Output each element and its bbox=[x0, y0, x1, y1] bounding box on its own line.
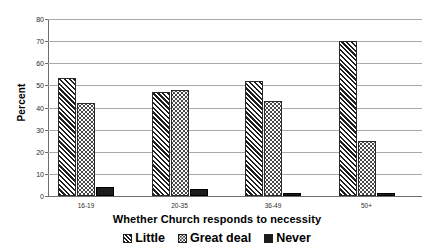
plot-area: 01020304050607080 bbox=[48, 19, 422, 197]
bar-chart: Percent 01020304050607080 16-1920-3536-4… bbox=[0, 0, 434, 252]
y-tick-mark bbox=[45, 152, 48, 153]
bar-group bbox=[152, 19, 246, 196]
y-tick-mark bbox=[45, 196, 48, 197]
y-tick-mark bbox=[45, 85, 48, 86]
bar bbox=[77, 103, 95, 196]
x-tick-label: 50+ bbox=[361, 203, 372, 210]
x-tick-label: 20-35 bbox=[171, 203, 188, 210]
y-tick-label: 20 bbox=[36, 148, 44, 155]
x-tick-label: 36-49 bbox=[265, 203, 282, 210]
y-tick-mark bbox=[45, 19, 48, 20]
legend-item: Little bbox=[123, 231, 165, 245]
y-tick-label: 40 bbox=[36, 104, 44, 111]
legend-swatch-icon bbox=[123, 234, 132, 243]
legend-swatch-icon bbox=[178, 234, 187, 243]
bar bbox=[377, 193, 395, 196]
y-tick-mark bbox=[45, 63, 48, 64]
bar bbox=[283, 193, 301, 196]
y-tick-mark bbox=[45, 41, 48, 42]
y-tick-label: 70 bbox=[36, 38, 44, 45]
bar bbox=[171, 90, 189, 196]
legend-swatch-icon bbox=[264, 234, 273, 243]
bar bbox=[264, 101, 282, 196]
y-tick-label: 10 bbox=[36, 170, 44, 177]
y-tick-mark bbox=[45, 108, 48, 109]
legend-label: Little bbox=[135, 231, 165, 245]
y-tick-mark bbox=[45, 174, 48, 175]
x-tick-label: 16-19 bbox=[78, 203, 95, 210]
bar bbox=[152, 92, 170, 196]
y-tick-label: 80 bbox=[36, 16, 44, 23]
legend-label: Never bbox=[276, 231, 311, 245]
bar bbox=[358, 141, 376, 196]
y-axis-title: Percent bbox=[16, 63, 27, 143]
y-tick-label: 50 bbox=[36, 82, 44, 89]
bar-group bbox=[339, 19, 433, 196]
y-tick-label: 30 bbox=[36, 126, 44, 133]
chart-legend: LittleGreat dealNever bbox=[0, 231, 434, 245]
bar-group bbox=[245, 19, 339, 196]
x-axis-title: Whether Church responds to necessity bbox=[0, 213, 434, 225]
legend-item: Never bbox=[264, 231, 311, 245]
legend-item: Great deal bbox=[178, 231, 251, 245]
bar bbox=[339, 41, 357, 196]
gridline bbox=[48, 196, 422, 197]
bar-group bbox=[58, 19, 152, 196]
y-tick-mark bbox=[45, 130, 48, 131]
y-tick-label: 60 bbox=[36, 60, 44, 67]
bar bbox=[190, 189, 208, 196]
bar bbox=[245, 81, 263, 196]
y-tick-label: 0 bbox=[40, 193, 44, 200]
bar bbox=[58, 78, 76, 196]
bar bbox=[96, 187, 114, 196]
legend-label: Great deal bbox=[190, 231, 251, 245]
